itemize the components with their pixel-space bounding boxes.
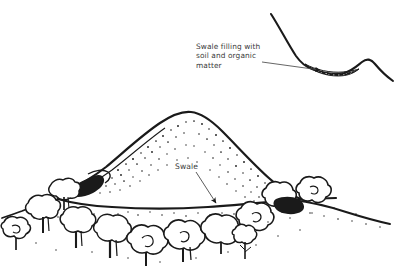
swale-right-bank [292,200,390,224]
swale-label-text: Swale [175,162,198,171]
swale-illustration: Swale filling with soil and organic matt… [0,0,408,278]
shrub-cluster [1,217,30,239]
inset-cross-section [262,14,393,81]
tree-canopy [60,207,96,233]
tree-trunk [48,217,49,231]
inset-profile-line [271,14,393,81]
inset-sediment-surface [305,64,359,72]
hill-stipple-texture [99,120,273,202]
shrub-cluster [296,177,331,203]
tree-canopy [26,195,61,220]
bush-cluster [127,225,168,254]
tree-canopy [94,214,132,242]
tree-trunk [81,231,82,246]
main-landscape-art [1,112,390,266]
bush-cluster [164,220,205,250]
inset-caption-text: Swale filling with soil and organic matt… [196,42,274,70]
sapling-canopy [232,224,257,243]
swale-leader-line [196,172,216,203]
